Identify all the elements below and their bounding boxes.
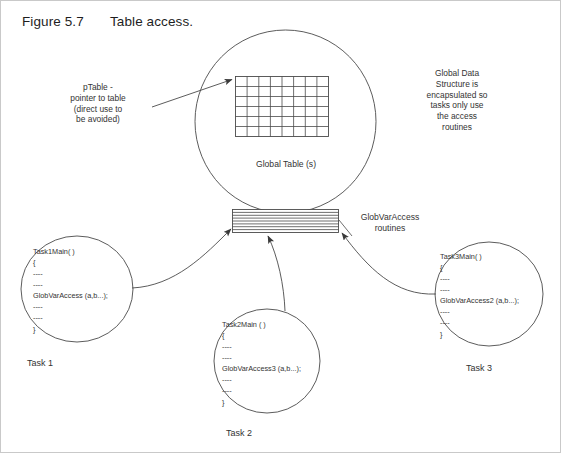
task2-caption: Task 2 <box>226 428 286 440</box>
access-routines-band-stripes <box>233 212 339 229</box>
ptable-annotation: pTable - pointer to table (direct use to… <box>43 82 153 125</box>
task2-access-arrow <box>268 236 285 311</box>
global-data-structure-circle <box>195 30 376 213</box>
figure-number-label: Figure 5.7 <box>22 13 84 30</box>
task1-code-block: Task1Main( ) { ---- ---- GlobVarAccess (… <box>33 246 138 335</box>
task2-code-block: Task2Main ( ) { ---- ---- GlobVarAccess3… <box>222 319 330 408</box>
access-routines-label: GlobVarAccess routines <box>340 212 440 234</box>
ptable-leader-line <box>152 80 232 108</box>
task3-access-arrow <box>342 233 436 294</box>
task3-caption: Task 3 <box>466 363 526 375</box>
encapsulation-annotation: Global Data Structure is encapsulated so… <box>402 68 512 133</box>
task1-access-arrow <box>132 229 231 288</box>
global-table-label: Global Table (s) <box>226 159 346 170</box>
figure-title: Table access. <box>110 13 193 30</box>
figure-canvas: Figure 5.7 Table access. pTable - pointe… <box>0 0 562 454</box>
task3-code-block: Task3Main( ) { ---- ---- GlobVarAccess2 … <box>440 251 550 340</box>
task1-caption: Task 1 <box>27 358 87 370</box>
